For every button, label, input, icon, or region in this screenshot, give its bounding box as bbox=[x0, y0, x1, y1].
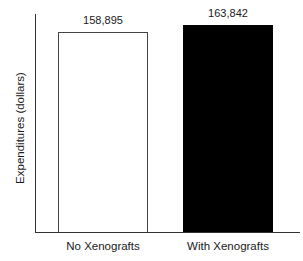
category-label-with-xenografts: With Xenografts bbox=[168, 240, 288, 252]
x-axis-line bbox=[35, 232, 300, 233]
bar-no-xenografts bbox=[58, 32, 148, 232]
bar-chart: Expenditures (dollars) 158,895 163,842 N… bbox=[0, 0, 303, 261]
value-label-with-xenografts: 163,842 bbox=[178, 7, 278, 19]
category-label-no-xenografts: No Xenografts bbox=[43, 240, 163, 252]
y-axis-line bbox=[35, 14, 36, 233]
value-label-no-xenografts: 158,895 bbox=[53, 14, 153, 26]
bar-with-xenografts bbox=[183, 25, 273, 232]
y-axis-label: Expenditures (dollars) bbox=[14, 72, 26, 184]
